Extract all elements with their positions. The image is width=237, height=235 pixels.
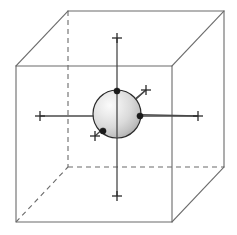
point-lower-left [100,128,106,134]
figure-root [0,0,237,235]
point-top [114,88,120,94]
sphere-in-cube-diagram [0,0,237,235]
point-right [137,113,143,119]
